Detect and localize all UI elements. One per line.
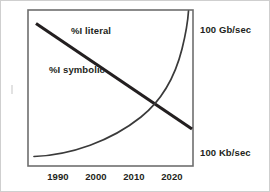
y-axis-label-bottom: 100 Kb/sec <box>200 147 251 158</box>
x-tick-2000: 2000 <box>79 171 113 182</box>
scan-artifact-mark <box>11 85 13 94</box>
series-annotation-literal: %I literal <box>71 25 111 36</box>
y-axis-label-top: 100 Gb/sec <box>200 24 251 35</box>
chart-figure: 100 Gb/sec 100 Kb/sec 1990 2000 2010 202… <box>0 0 270 192</box>
x-tick-2020: 2020 <box>155 171 189 182</box>
series-annotation-symbolic: %I symbolic <box>49 64 105 75</box>
x-tick-1990: 1990 <box>41 171 75 182</box>
x-tick-2010: 2010 <box>117 171 151 182</box>
